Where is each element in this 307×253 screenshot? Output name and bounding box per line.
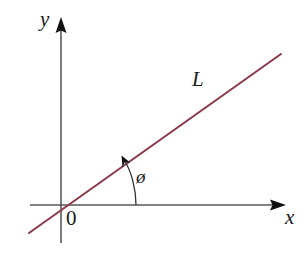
y-axis-label: y xyxy=(40,9,49,30)
x-axis-label: x xyxy=(285,207,294,228)
figure-container: y x 0 L ø xyxy=(0,0,307,253)
angle-label: ø xyxy=(136,167,146,186)
line-label-L: L xyxy=(192,69,204,90)
angle-arc xyxy=(125,161,137,206)
coordinate-diagram xyxy=(0,0,307,253)
angle-arc-arrowhead xyxy=(122,156,131,168)
origin-label: 0 xyxy=(66,208,77,229)
